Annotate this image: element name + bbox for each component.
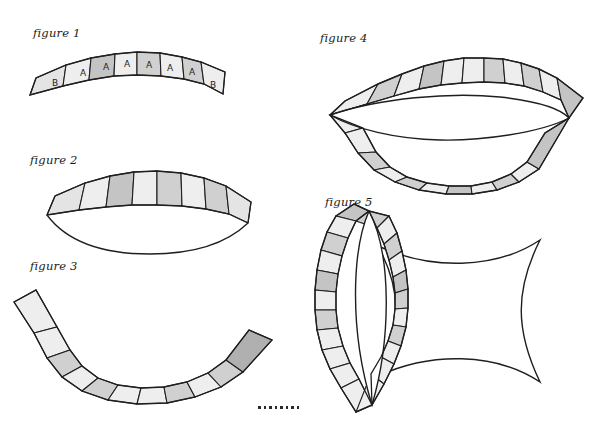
figure-5-segment-right — [384, 233, 402, 260]
figure-2-segment — [181, 173, 206, 209]
figure-2-segment — [106, 172, 134, 207]
figure-3-segment — [62, 366, 98, 391]
figure-1-segment-letter: A — [167, 63, 174, 73]
figure-4-segment-top — [419, 61, 444, 89]
figure-5-segment-right — [356, 211, 389, 228]
figure-1-segment — [182, 57, 204, 84]
figure-3-segment — [226, 330, 272, 372]
figure-sheet: figure 1 figure 2 figure 3 figure 4 figu… — [0, 0, 599, 421]
continuation-dot — [297, 406, 300, 409]
figure-5-inner-right-edge — [369, 211, 395, 405]
figure-4-segment-bottom — [527, 118, 569, 169]
figure-5-segment-right — [393, 270, 408, 293]
continuation-dot — [280, 406, 283, 409]
figure-5-segment-left — [317, 250, 342, 274]
continuation-dot — [286, 406, 289, 409]
figure-5-segment-left — [315, 310, 338, 330]
figure-1-segment-letter: A — [103, 62, 110, 72]
figure-3-segment — [82, 378, 118, 400]
figures-canvas: B A A A A A A B — [0, 0, 599, 421]
figure-2-outline — [47, 171, 251, 223]
figure-1-segment — [201, 62, 225, 94]
continuation-dot — [269, 406, 272, 409]
figure-1-segment — [30, 65, 66, 95]
figure-5-inner-left-edge — [336, 211, 372, 405]
figure-4-label: figure 4 — [320, 31, 368, 45]
continuation-dot — [291, 406, 294, 409]
figure-5-segment-left — [330, 363, 359, 388]
figure-5-label: figure 5 — [325, 195, 373, 209]
figure-3-segment — [108, 385, 141, 404]
figure-5-segment-right — [395, 289, 408, 309]
figure-5-segment-left — [315, 290, 336, 310]
figure-5-segment-left — [341, 379, 372, 412]
continuation-dots — [258, 406, 299, 409]
figure-2-segment — [47, 183, 85, 215]
figure-4-segment-bottom — [374, 167, 407, 182]
figure-2-segment — [204, 178, 229, 214]
figure-2-lower-arc — [47, 215, 248, 254]
figure-4-segment-top — [462, 58, 484, 83]
figure-1-outline — [30, 52, 225, 95]
figure-4-segment-bottom — [395, 177, 427, 190]
figure-1-segment-letter: A — [80, 68, 87, 78]
figure-2-inner-arc — [47, 205, 248, 223]
figure-4-segment-top — [367, 74, 402, 104]
figure-4-inner-bottom-edge — [330, 115, 569, 194]
figure-1-shape: B A A A A A A B — [30, 52, 225, 95]
figure-4-segment-bottom — [471, 182, 497, 194]
figure-4-segment-bottom — [345, 128, 376, 153]
figure-4-segment-bottom — [358, 152, 390, 170]
figure-5-segment-right — [356, 374, 384, 412]
figure-2-segment — [226, 186, 251, 223]
figure-5-segment-left — [315, 270, 338, 292]
figure-1-segment-letter: A — [189, 67, 196, 77]
figure-5-segment-left — [327, 216, 356, 238]
figure-4-segment-top — [394, 66, 424, 96]
figure-1-segment — [63, 58, 91, 86]
figure-3-segment — [14, 290, 57, 333]
figure-4-shape — [330, 58, 583, 194]
figure-4-segment-bottom — [446, 186, 472, 194]
large-square-shape — [378, 240, 540, 382]
figure-2-segment — [79, 176, 110, 210]
figure-4-inner-top-edge — [330, 82, 569, 118]
figure-1-label: figure 1 — [33, 26, 81, 40]
figure-3-label: figure 3 — [30, 259, 78, 273]
figure-2-label: figure 2 — [30, 153, 78, 167]
figure-4-segment-top — [503, 59, 524, 86]
figure-5-segment-right — [389, 251, 406, 277]
figure-4-inner-hole — [330, 95, 569, 140]
figure-5-inner-hole — [356, 211, 387, 405]
figure-4-segment-top — [557, 78, 583, 118]
figure-4-segment-bottom — [511, 162, 539, 182]
continuation-dot — [275, 406, 278, 409]
large-square-label: large square — [430, 289, 513, 304]
figure-1-segment-letter: B — [52, 78, 58, 88]
figure-5-segment-left — [322, 346, 350, 369]
figure-5-segment-right — [377, 216, 397, 244]
figure-1-segment-letter: A — [146, 60, 153, 70]
figure-4-segment-bottom — [492, 174, 519, 190]
figure-4-segment-top — [330, 84, 378, 115]
figure-5-segment-right — [371, 357, 394, 384]
figure-3-segment — [208, 360, 243, 387]
figure-1-segment — [160, 53, 184, 79]
figure-3-segment — [34, 327, 70, 358]
figure-2-segment — [157, 171, 182, 206]
figure-3-segment — [187, 373, 221, 397]
figure-2-segment — [132, 171, 157, 205]
figure-4-segment-top — [521, 63, 543, 92]
figure-1-segment-letter: B — [210, 80, 216, 90]
figure-5-segment-right — [381, 341, 401, 364]
figure-3-segment — [137, 387, 167, 404]
figure-1-segment — [114, 52, 137, 76]
figure-3-segment — [164, 382, 195, 403]
figure-4-segment-top — [441, 58, 464, 85]
figure-1-segment — [137, 52, 161, 76]
figure-5-segment-left — [317, 328, 343, 350]
figure-5-outline — [315, 204, 408, 412]
figure-5-segment-right — [393, 308, 408, 327]
figure-5-segment-right — [388, 325, 406, 346]
figure-4-segment-bottom — [419, 183, 449, 194]
